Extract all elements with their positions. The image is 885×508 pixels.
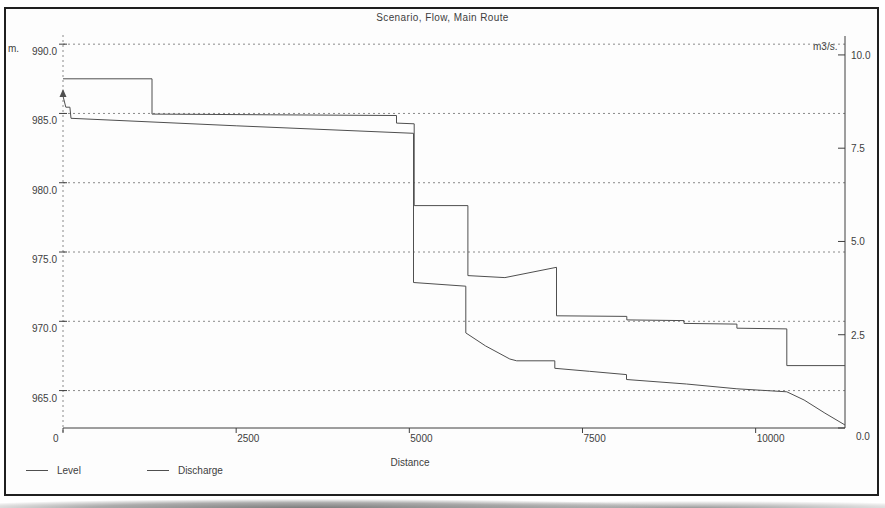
- right-axis-tick-label: 0.0: [856, 431, 870, 442]
- x-axis-tick-label: 10000: [757, 433, 785, 444]
- right-axis-tick-label: 2.5: [851, 330, 865, 341]
- legend-item-discharge: Discharge: [147, 465, 223, 476]
- left-axis-tick-label: 975.0: [32, 254, 57, 265]
- right-axis-tick-label: 5.0: [851, 236, 865, 247]
- chart-plot-area: 990.0985.0980.0975.0970.0965.010.07.55.0…: [0, 0, 885, 508]
- discharge-line-swatch: [147, 470, 169, 471]
- discharge-line: [63, 96, 845, 425]
- left-axis-tick-label: 980.0: [32, 185, 57, 196]
- x-axis-title: Distance: [378, 457, 442, 468]
- left-axis-tick-label: 990.0: [32, 46, 57, 57]
- x-axis-tick-label: 0: [53, 433, 59, 444]
- right-axis-tick-label: 7.5: [851, 143, 865, 154]
- x-axis-tick-label: 2500: [237, 433, 260, 444]
- level-line-swatch: [26, 470, 48, 471]
- legend: Level Discharge: [26, 465, 223, 476]
- screenshot-root: Scenario, Flow, Main Route m. m3/s. 990.…: [0, 0, 885, 508]
- legend-label-discharge: Discharge: [178, 465, 223, 476]
- level-line: [63, 79, 845, 366]
- legend-label-level: Level: [57, 465, 81, 476]
- scan-artifact: [0, 499, 885, 508]
- flow-direction-arrow-icon: [60, 89, 67, 97]
- x-axis-tick-label: 5000: [410, 433, 433, 444]
- right-axis-tick-label: 10.0: [851, 50, 871, 61]
- x-axis-tick-label: 7500: [583, 433, 606, 444]
- left-axis-tick-label: 970.0: [32, 323, 57, 334]
- left-axis-tick-label: 965.0: [32, 393, 57, 404]
- left-axis-tick-label: 985.0: [32, 115, 57, 126]
- legend-item-level: Level: [26, 465, 81, 476]
